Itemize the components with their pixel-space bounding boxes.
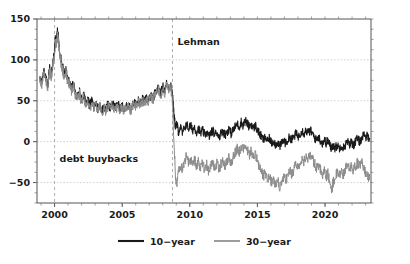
y-tick-label-150: 150 — [10, 13, 30, 24]
legend-label-10-year: 10−year — [150, 236, 195, 247]
annotation-lehman: Lehman — [177, 36, 220, 47]
time-series-chart: 150100500−50 20002005201020152020 Lehman… — [0, 0, 410, 264]
x-tick-label-2000: 2000 — [41, 209, 68, 220]
x-tick-label-2015: 2015 — [244, 209, 270, 220]
y-tick-label--50: −50 — [9, 177, 31, 188]
y-tick-label-100: 100 — [10, 54, 30, 65]
chart-figure: 150100500−50 20002005201020152020 Lehman… — [0, 0, 410, 264]
annotation-debt-buybacks: debt buybacks — [60, 153, 139, 164]
legend-label-30-year: 30−year — [246, 236, 291, 247]
x-tick-label-2010: 2010 — [177, 209, 204, 220]
x-tick-label-2005: 2005 — [109, 209, 135, 220]
y-tick-label-0: 0 — [23, 136, 30, 147]
y-tick-label-50: 50 — [17, 95, 31, 106]
x-tick-label-2020: 2020 — [312, 209, 339, 220]
